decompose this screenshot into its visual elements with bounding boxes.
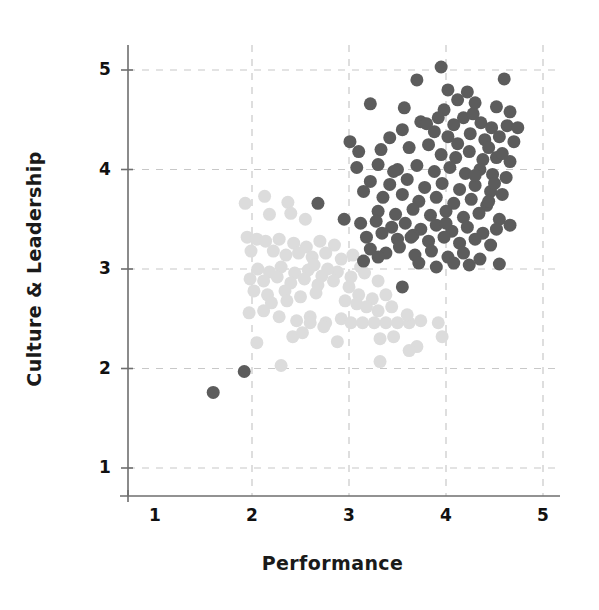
data-point bbox=[375, 227, 388, 240]
data-point bbox=[405, 231, 418, 244]
data-point bbox=[498, 72, 511, 85]
data-point bbox=[372, 304, 385, 317]
data-point bbox=[496, 147, 509, 160]
data-point bbox=[299, 213, 312, 226]
data-point bbox=[403, 141, 416, 154]
data-point bbox=[457, 247, 470, 260]
data-point bbox=[504, 105, 517, 118]
data-point bbox=[432, 111, 445, 124]
data-point bbox=[344, 316, 357, 329]
data-point bbox=[482, 141, 495, 154]
data-point bbox=[290, 314, 303, 327]
data-point bbox=[422, 138, 435, 151]
data-point bbox=[257, 274, 270, 287]
y-axis-title: Culture & Leadership bbox=[23, 109, 45, 429]
data-point bbox=[435, 148, 448, 161]
data-point bbox=[379, 316, 392, 329]
data-point bbox=[432, 316, 445, 329]
data-point bbox=[407, 203, 420, 216]
data-point bbox=[383, 131, 396, 144]
data-point bbox=[263, 208, 276, 221]
data-point bbox=[280, 294, 293, 307]
data-point bbox=[401, 308, 414, 321]
data-point bbox=[356, 316, 369, 329]
data-point bbox=[258, 190, 271, 203]
data-point bbox=[304, 316, 317, 329]
data-point bbox=[469, 169, 482, 182]
data-point bbox=[493, 130, 506, 143]
data-point bbox=[375, 143, 388, 156]
data-point bbox=[265, 296, 278, 309]
data-point bbox=[396, 280, 409, 293]
data-point bbox=[238, 365, 251, 378]
data-point bbox=[472, 207, 485, 220]
data-point bbox=[267, 245, 280, 258]
data-point bbox=[239, 197, 252, 210]
x-tick-label: 2 bbox=[239, 505, 265, 525]
data-point bbox=[425, 245, 438, 258]
data-point bbox=[317, 320, 330, 333]
data-point bbox=[440, 205, 453, 218]
data-point bbox=[273, 233, 286, 246]
data-point bbox=[374, 355, 387, 368]
data-point bbox=[357, 185, 370, 198]
data-point bbox=[372, 251, 385, 264]
data-point bbox=[463, 145, 476, 158]
data-point bbox=[436, 330, 449, 343]
data-point bbox=[292, 247, 305, 260]
x-tick-label: 3 bbox=[336, 505, 362, 525]
data-point bbox=[438, 231, 451, 244]
scatter-chart: Performance Culture & Leadership 1234512… bbox=[0, 0, 599, 610]
data-point bbox=[440, 217, 453, 230]
data-point bbox=[247, 284, 260, 297]
data-point bbox=[396, 123, 409, 136]
data-point bbox=[311, 197, 324, 210]
data-point bbox=[488, 177, 501, 190]
data-point bbox=[387, 165, 400, 178]
data-point bbox=[463, 259, 476, 272]
data-point bbox=[354, 217, 367, 230]
y-tick-label: 3 bbox=[92, 258, 118, 278]
data-point bbox=[430, 261, 443, 274]
data-point bbox=[414, 314, 427, 327]
data-point bbox=[207, 386, 220, 399]
data-point bbox=[331, 335, 344, 348]
data-point bbox=[447, 257, 460, 270]
data-point bbox=[313, 235, 326, 248]
data-point bbox=[343, 135, 356, 148]
data-point bbox=[385, 300, 398, 313]
data-point bbox=[275, 359, 288, 372]
data-point bbox=[338, 213, 351, 226]
x-axis-title: Performance bbox=[0, 552, 599, 574]
data-point bbox=[281, 196, 294, 209]
x-tick-label: 4 bbox=[433, 505, 459, 525]
data-point bbox=[360, 231, 373, 244]
data-point bbox=[244, 272, 257, 285]
data-point bbox=[410, 159, 423, 172]
data-point bbox=[284, 207, 297, 220]
data-point bbox=[504, 219, 517, 232]
data-point bbox=[465, 193, 478, 206]
data-point bbox=[430, 191, 443, 204]
data-point bbox=[469, 96, 482, 109]
data-point bbox=[490, 100, 503, 113]
data-point bbox=[350, 297, 363, 310]
data-point bbox=[453, 183, 466, 196]
data-point bbox=[507, 135, 520, 148]
data-point bbox=[279, 249, 292, 262]
data-point bbox=[469, 233, 482, 246]
data-point bbox=[436, 177, 449, 190]
data-point bbox=[250, 336, 263, 349]
data-point bbox=[271, 270, 284, 283]
y-tick-label: 5 bbox=[92, 59, 118, 79]
data-point bbox=[410, 73, 423, 86]
data-point bbox=[393, 241, 406, 254]
data-point bbox=[461, 221, 474, 234]
data-point bbox=[243, 306, 256, 319]
data-point bbox=[511, 121, 524, 134]
data-point bbox=[364, 97, 377, 110]
data-point bbox=[482, 195, 495, 208]
data-point bbox=[484, 239, 497, 252]
data-point bbox=[428, 165, 441, 178]
data-point bbox=[420, 117, 433, 130]
